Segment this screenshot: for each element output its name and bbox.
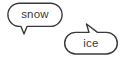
speech-bubble-ice: ice <box>65 24 118 54</box>
speech-bubble-ice-label: ice <box>83 37 98 49</box>
speech-bubble-snow: snow <box>8 3 62 34</box>
speech-bubble-snow-label: snow <box>21 8 49 20</box>
speech-bubble-canvas: snow ice <box>0 0 123 61</box>
speech-bubble-illustration: snow ice <box>0 0 123 61</box>
